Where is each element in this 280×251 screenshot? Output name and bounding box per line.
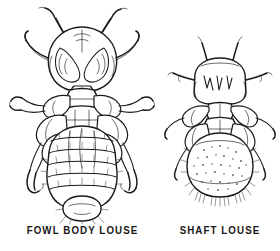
figure-shaft-louse: SHAFT LOUSE (160, 0, 280, 251)
fowl-body-louse-illustration (0, 0, 165, 224)
figure-fowl-body-louse: FOWL BODY LOUSE (0, 0, 165, 251)
shaft-louse-illustration (160, 0, 280, 224)
shaft-louse-head (194, 58, 246, 104)
caption-shaft-louse: SHAFT LOUSE (164, 224, 276, 237)
fowl-louse-head (48, 27, 116, 91)
caption-fowl-body-louse: FOWL BODY LOUSE (6, 224, 159, 237)
louse-comparison-plate: FOWL BODY LOUSE (0, 0, 280, 251)
fowl-louse-abdomen (41, 126, 123, 224)
